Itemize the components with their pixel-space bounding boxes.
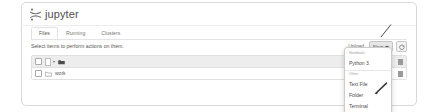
tab-clusters-label: Clusters bbox=[101, 30, 120, 36]
menu-item-python-3[interactable]: Python 3 bbox=[345, 57, 391, 68]
tabs-divider bbox=[31, 39, 407, 40]
screenshot-root: jupyter Files Running Clusters Select it… bbox=[0, 0, 424, 112]
checkbox-icon[interactable] bbox=[35, 70, 42, 77]
folder-icon[interactable] bbox=[58, 59, 65, 65]
refresh-icon bbox=[399, 44, 405, 50]
row-status-icon bbox=[398, 71, 403, 77]
row-right-icons bbox=[398, 68, 403, 79]
name-sort-icon[interactable] bbox=[398, 59, 403, 65]
new-dropdown-menu: Notebook: Python 3 Other: Text File Fold… bbox=[344, 47, 392, 112]
jupyter-logo-icon bbox=[30, 8, 42, 21]
chevron-down-icon bbox=[53, 61, 55, 63]
file-list-toolbar-right-icons bbox=[398, 56, 403, 67]
menu-item-terminal[interactable]: Terminal bbox=[345, 100, 391, 111]
jupyter-logo-text: jupyter bbox=[45, 8, 79, 21]
refresh-button[interactable] bbox=[396, 41, 407, 52]
folder-icon bbox=[45, 71, 52, 77]
checkbox-icon[interactable] bbox=[35, 58, 42, 65]
annotation-line-to-new-button bbox=[379, 24, 393, 42]
dropdown-section-header-other: Other: bbox=[345, 71, 391, 78]
select-scope-box bbox=[45, 58, 51, 66]
tab-running-label: Running bbox=[66, 30, 85, 36]
dashboard-header: jupyter bbox=[30, 8, 79, 21]
select-scope-dropdown[interactable] bbox=[45, 58, 55, 66]
header-divider bbox=[23, 25, 415, 26]
tab-files-label: Files bbox=[39, 30, 50, 36]
list-item-name[interactable]: work bbox=[55, 70, 66, 77]
dropdown-section-header-notebook: Notebook: bbox=[345, 50, 391, 57]
mouse-cursor-arrow bbox=[372, 82, 388, 100]
select-items-note: Select items to perform actions on them. bbox=[31, 42, 124, 50]
